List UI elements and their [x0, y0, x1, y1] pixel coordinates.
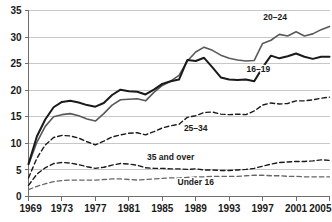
x-axis-tick-labels: 1969197319771981198519891993199720012005: [20, 203, 332, 214]
series-line-25-34: [29, 97, 330, 178]
y-tick-label-10: 10: [10, 138, 22, 149]
series-label-25-34: 25–34: [184, 123, 208, 133]
y-tick-label-35: 35: [10, 5, 22, 16]
x-tick-label-1985: 1985: [151, 203, 174, 214]
series-label-under-16: Under 16: [178, 177, 215, 187]
line-chart: 05101520253035 1969197319771981198519891…: [0, 0, 332, 222]
x-tick-label-1997: 1997: [251, 203, 274, 214]
y-tick-label-25: 25: [10, 58, 22, 69]
x-tick-label-1973: 1973: [51, 203, 74, 214]
tickmarks-group: [25, 11, 330, 201]
series-label-20-24: 20–24: [263, 12, 287, 22]
y-tick-label-15: 15: [10, 111, 22, 122]
x-tick-label-1989: 1989: [185, 203, 208, 214]
series-line-20-24: [29, 26, 330, 164]
x-tick-label-1993: 1993: [218, 203, 241, 214]
gridlines-group: [29, 11, 330, 170]
series-line-16-19: [29, 54, 330, 165]
x-tick-label-1977: 1977: [84, 203, 107, 214]
y-axis-tick-labels: 05101520253035: [10, 5, 22, 202]
x-tick-label-1981: 1981: [118, 203, 141, 214]
y-tick-label-30: 30: [10, 32, 22, 43]
series-label-16-19: 16–19: [247, 64, 271, 74]
chart-container: 05101520253035 1969197319771981198519891…: [0, 0, 332, 222]
series-annotations: 20–2420–2416–1916–1925–3425–3435 and ove…: [147, 12, 287, 187]
series-label-35-and-over: 35 and over: [147, 152, 195, 162]
x-tick-label-2001: 2001: [285, 203, 308, 214]
x-tick-label-2005: 2005: [309, 203, 332, 214]
x-tick-label-1969: 1969: [20, 203, 43, 214]
series-group: [29, 26, 330, 189]
y-tick-label-0: 0: [16, 191, 22, 202]
y-tick-label-20: 20: [10, 85, 22, 96]
y-tick-label-5: 5: [16, 165, 22, 176]
